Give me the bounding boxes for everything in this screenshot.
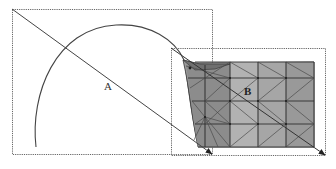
diagram-canvas <box>0 0 336 169</box>
diagonal-arrow-a <box>12 9 212 154</box>
label-a: A <box>104 81 112 92</box>
diagram-figure: A B <box>0 0 336 169</box>
label-b: B <box>244 86 251 97</box>
